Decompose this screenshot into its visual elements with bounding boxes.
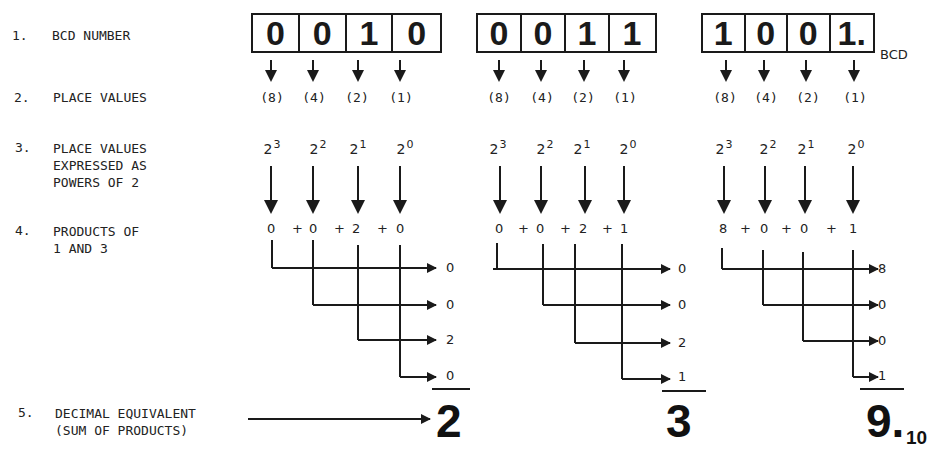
plus-sign: + [334,221,345,236]
power-of-two: 20 [397,138,414,157]
bcd-box-3: 1 0 0 1. [701,13,875,53]
power-of-two: 20 [848,138,865,157]
place-value: (4) [530,90,553,105]
plus-sign: + [377,221,388,236]
place-value: (8) [713,90,736,105]
plus-sign: + [826,221,837,236]
place-value: (1) [843,90,866,105]
partial-result: 0 [878,333,886,348]
place-value: (1) [613,90,636,105]
power-of-two: 23 [264,138,281,157]
plus-sign: + [740,221,751,236]
product-term: 0 [800,221,808,236]
power-of-two: 21 [798,138,815,157]
partial-result: 0 [446,260,454,275]
plus-sign: + [781,221,792,236]
bcd-bit: 1. [831,15,873,51]
bcd-bit: 0 [300,15,347,51]
partial-result: 2 [678,335,686,350]
partial-result: 0 [678,261,686,276]
place-value: (2) [796,90,819,105]
product-term: 1 [849,221,857,236]
bcd-tag: BCD [880,47,908,62]
power-of-two: 22 [537,138,554,157]
bcd-bit: 0 [522,15,566,51]
plus-sign: + [602,221,613,236]
bcd-bit: 1 [703,15,746,51]
place-value: (2) [571,90,594,105]
place-value: (2) [345,90,368,105]
plus-sign: + [518,221,529,236]
bcd-bit: 0 [788,15,831,51]
product-term: 2 [579,221,587,236]
power-of-two: 23 [716,138,733,157]
power-of-two: 23 [490,138,507,157]
product-term: 0 [760,221,768,236]
partial-result: 1 [878,368,886,383]
partial-result: 0 [878,297,886,312]
partial-result: 8 [878,261,886,276]
example-1-lines [248,60,470,419]
place-value: (4) [302,90,325,105]
plus-sign: + [560,221,571,236]
partial-result: 2 [446,332,454,347]
bcd-bit: 0 [478,15,522,51]
power-of-two: 21 [574,138,591,157]
place-value: (1) [389,90,412,105]
product-term: 8 [719,221,727,236]
decimal-sum: 2 [436,398,462,444]
product-term: 0 [495,221,503,236]
power-of-two: 20 [620,138,637,157]
plus-sign: + [292,221,303,236]
partial-result: 0 [446,368,454,383]
bcd-box-2: 0 0 1 1 [476,13,657,53]
bcd-bit: 0 [253,15,300,51]
base-subscript: 10 [906,427,927,449]
product-term: 2 [352,221,360,236]
power-of-two: 22 [310,138,327,157]
bcd-bit: 1 [347,15,394,51]
partial-result: 0 [446,297,454,312]
product-term: 1 [620,221,628,236]
product-term: 0 [267,221,275,236]
bcd-box-1: 0 0 1 0 [251,13,442,53]
decimal-sum: 9. [866,398,904,444]
place-value: (8) [487,90,510,105]
decimal-sum: 3 [666,398,692,444]
bcd-bit: 0 [746,15,789,51]
product-term: 0 [536,221,544,236]
bcd-bit: 1 [610,15,654,51]
partial-result: 1 [678,369,686,384]
bcd-bit: 0 [393,15,440,51]
bcd-bit: 1 [566,15,610,51]
product-term: 0 [396,221,404,236]
partial-result: 0 [678,297,686,312]
power-of-two: 22 [760,138,777,157]
place-value: (4) [754,90,777,105]
place-value: (8) [260,90,283,105]
product-term: 0 [309,221,317,236]
power-of-two: 21 [350,138,367,157]
